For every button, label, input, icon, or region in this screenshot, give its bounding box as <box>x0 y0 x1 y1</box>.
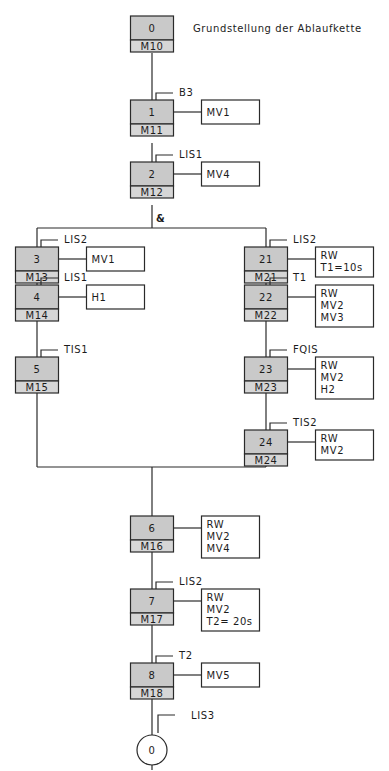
step-number: 4 <box>34 292 41 303</box>
step-marker: M18 <box>140 688 163 699</box>
step-number: 6 <box>149 523 156 534</box>
transition-condition: T2 <box>178 650 193 661</box>
transition-marker <box>270 423 287 430</box>
action-label: MV2 <box>321 300 345 311</box>
step-number: 5 <box>34 364 41 375</box>
step-number: 22 <box>259 292 273 303</box>
transition-marker <box>270 350 287 357</box>
step-number: 24 <box>259 437 273 448</box>
action-label: MV4 <box>207 169 231 180</box>
step-marker: M10 <box>140 41 163 52</box>
action-label: RW <box>207 592 225 603</box>
step-number: 3 <box>34 254 41 265</box>
transition-marker <box>156 582 173 589</box>
step-marker: M22 <box>254 310 277 321</box>
step-marker: M12 <box>140 187 163 198</box>
end-transition-condition: LIS3 <box>191 710 215 721</box>
action-label: MV1 <box>92 254 116 265</box>
transition-marker <box>41 240 58 247</box>
transition-condition: FQIS <box>293 344 318 355</box>
step-number: 1 <box>149 107 156 118</box>
action-label: H1 <box>92 292 107 303</box>
step-marker: M14 <box>25 310 48 321</box>
action-label: H2 <box>321 384 336 395</box>
step-marker: M15 <box>25 382 48 393</box>
step-number: 23 <box>259 364 273 375</box>
parallel-branch-label: & <box>156 213 165 224</box>
action-label: T1=10s <box>320 262 363 273</box>
step-number: 2 <box>149 169 156 180</box>
transition-marker <box>156 656 173 663</box>
action-label: MV3 <box>321 312 345 323</box>
transition-condition: LIS2 <box>64 234 88 245</box>
action-label: MV1 <box>207 107 231 118</box>
action-label: MV2 <box>207 604 231 615</box>
action-label: MV2 <box>207 531 231 542</box>
transition-condition: LIS2 <box>179 576 203 587</box>
action-label: RW <box>321 250 339 261</box>
action-label: RW <box>321 360 339 371</box>
action-label: MV4 <box>207 543 231 554</box>
step-number: 8 <box>149 670 156 681</box>
transition-marker <box>156 155 173 162</box>
transition-condition: TIS2 <box>292 417 317 428</box>
action-label: MV2 <box>321 372 345 383</box>
end-step-number: 0 <box>149 745 156 756</box>
step-number: 21 <box>259 254 273 265</box>
step-marker: M24 <box>254 455 277 466</box>
step-marker: M16 <box>140 541 163 552</box>
transition-condition: B3 <box>179 87 193 98</box>
step-marker: M11 <box>140 125 163 136</box>
action-label: RW <box>321 288 339 299</box>
action-label: T2= 20s <box>206 616 253 627</box>
step-marker: M23 <box>254 382 277 393</box>
action-label: MV5 <box>207 670 231 681</box>
action-label: MV2 <box>321 445 345 456</box>
transition-marker <box>156 93 173 100</box>
action-label: RW <box>321 433 339 444</box>
transition-condition: LIS1 <box>64 272 88 283</box>
transition-condition: TIS1 <box>63 344 88 355</box>
step-number: 7 <box>149 596 156 607</box>
transition-marker <box>158 715 175 733</box>
transition-marker <box>270 240 287 247</box>
initial-step-comment: Grundstellung der Ablaufkette <box>193 23 362 34</box>
sequence-chart: 0M10Grundstellung der Ablaufkette1M11B3M… <box>0 0 389 771</box>
transition-condition: LIS1 <box>179 149 203 160</box>
transition-condition: T1 <box>292 272 307 283</box>
action-label: RW <box>207 519 225 530</box>
step-number: 0 <box>149 23 156 34</box>
transition-condition: LIS2 <box>293 234 317 245</box>
step-marker: M17 <box>140 614 163 625</box>
transition-marker <box>41 350 58 357</box>
